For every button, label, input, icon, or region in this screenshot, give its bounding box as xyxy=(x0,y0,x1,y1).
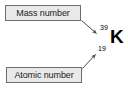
mass-number-label-box: Mass number xyxy=(5,5,81,21)
isotope-symbol-group: 39 19 K xyxy=(96,24,128,64)
mass-number-value: 39 xyxy=(100,24,108,31)
element-symbol-value: K xyxy=(110,27,124,46)
atomic-number-label-box: Atomic number xyxy=(6,67,82,83)
mass-number-label-text: Mass number xyxy=(16,9,69,18)
mass-number-arrow xyxy=(82,21,97,34)
atomic-number-value: 19 xyxy=(98,45,106,52)
atomic-number-label-text: Atomic number xyxy=(14,71,73,80)
atomic-number-arrow xyxy=(83,55,96,69)
isotope-notation-diagram: Mass number Atomic number 39 19 K xyxy=(0,0,128,90)
